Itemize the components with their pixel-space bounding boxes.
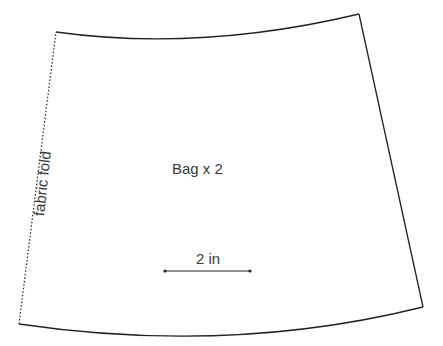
top-edge	[56, 14, 359, 39]
scale-label: 2 in	[196, 250, 220, 267]
scale-bar-start	[163, 269, 166, 272]
bottom-edge	[19, 307, 423, 336]
right-edge	[359, 14, 423, 307]
piece-label: Bag x 2	[172, 160, 223, 177]
scale-bar-end	[248, 269, 251, 272]
